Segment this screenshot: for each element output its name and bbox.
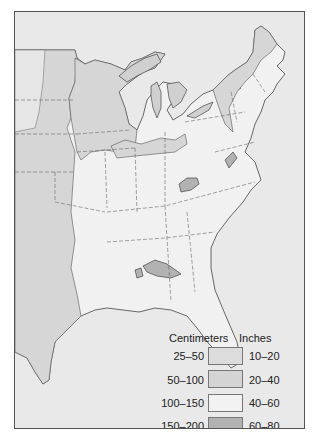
precipitation-map [15,12,305,429]
map-frame: Centimeters Inches 25–50 10–20 50–100 20… [14,11,305,429]
